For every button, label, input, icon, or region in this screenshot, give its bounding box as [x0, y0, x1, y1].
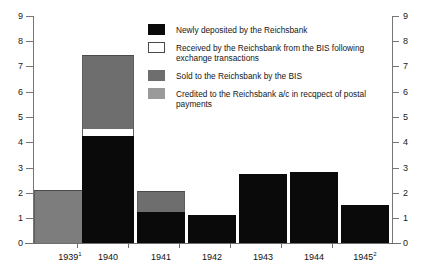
- legend-label-newly-deposited: Newly deposited by the Reichsbank: [176, 24, 307, 35]
- bar-segment-1943-newly-deposited: [239, 174, 287, 243]
- y-label-right-7: 7: [403, 62, 414, 71]
- legend-item-newly-deposited: Newly deposited by the Reichsbank: [148, 24, 398, 35]
- y-tick-right-5: [392, 117, 399, 118]
- legend-label-sold-by-bis: Sold to the Reichsbank by the BIS: [176, 70, 302, 81]
- y-label-right-3: 3: [403, 164, 414, 173]
- y-tick-left-6: [26, 92, 33, 93]
- y-label-right-8: 8: [403, 37, 414, 46]
- x-tick-4: [230, 244, 231, 248]
- bar-segment-1940-newly-deposited: [82, 136, 134, 243]
- y-label-left-7: 7: [12, 62, 23, 71]
- y-label-right-9: 9: [403, 12, 414, 21]
- bar-1945: [341, 205, 389, 243]
- legend-item-received-exchange: Received by the Reichsbank from the BIS …: [148, 42, 398, 63]
- bar-segment-1941-newly-deposited: [137, 212, 185, 244]
- y-tick-right-9: [392, 16, 399, 17]
- bar-segment-1940-sold-by-bis: [82, 55, 134, 129]
- bar-1941: [137, 191, 185, 243]
- y-tick-left-8: [26, 41, 33, 42]
- bar-segment-1941-sold-by-bis: [137, 191, 185, 211]
- y-tick-right-4: [392, 142, 399, 143]
- y-tick-left-2: [26, 193, 33, 194]
- x-axis-line: [25, 243, 401, 244]
- x-tick-3: [179, 244, 180, 248]
- x-label-1944: 1944: [290, 252, 338, 262]
- gray-swatch-icon: [148, 70, 165, 81]
- chart-legend: Newly deposited by the Reichsbank Receiv…: [148, 24, 398, 116]
- bar-segment-1945-newly-deposited: [341, 205, 389, 243]
- y-label-left-9: 9: [12, 12, 23, 21]
- x-label-1941: 1941: [137, 252, 185, 262]
- bar-1943: [239, 174, 287, 243]
- x-tick-6: [332, 244, 333, 248]
- y-tick-left-4: [26, 142, 33, 143]
- y-label-right-5: 5: [403, 113, 414, 122]
- bar-segment-1942-newly-deposited: [188, 215, 236, 243]
- x-label-1944-year: 1944: [304, 252, 324, 262]
- legend-label-received-exchange: Received by the Reichsbank from the BIS …: [176, 42, 398, 63]
- y-tick-left-7: [26, 66, 33, 67]
- y-label-right-1: 1: [403, 214, 414, 223]
- y-tick-right-2: [392, 193, 399, 194]
- x-label-1942-year: 1942: [202, 252, 222, 262]
- x-label-1943-year: 1943: [253, 252, 273, 262]
- x-label-1945-year: 1945: [353, 252, 373, 262]
- y-tick-left-3: [26, 168, 33, 169]
- y-label-left-5: 5: [12, 113, 23, 122]
- bar-segment-1940-received-exchange: [82, 129, 134, 136]
- y-tick-right-1: [392, 218, 399, 219]
- y-tick-left-9: [26, 16, 33, 17]
- black-swatch-icon: [148, 24, 165, 35]
- y-label-left-8: 8: [12, 37, 23, 46]
- y-tick-left-5: [26, 117, 33, 118]
- y-label-left-3: 3: [12, 164, 23, 173]
- x-label-1942: 1942: [188, 252, 236, 262]
- legend-item-credited-postal: Credited to the Reichsbank a/c in recqpe…: [148, 88, 398, 109]
- x-label-1940: 1940: [82, 252, 134, 262]
- legend-label-credited-postal: Credited to the Reichsbank a/c in recqpe…: [176, 88, 398, 109]
- x-label-1941-year: 1941: [151, 252, 171, 262]
- x-tick-5: [281, 244, 282, 248]
- y-label-right-4: 4: [403, 138, 414, 147]
- bar-chart: 9 8 7 6 5 4 3 2 1 0 9 8 7 6 5 4 3 2 1 0: [0, 0, 428, 278]
- x-label-1945: 19452: [341, 252, 389, 262]
- y-label-left-1: 1: [12, 214, 23, 223]
- x-label-1943: 1943: [239, 252, 287, 262]
- y-tick-left-1: [26, 218, 33, 219]
- y-label-right-2: 2: [403, 189, 414, 198]
- bar-segment-1944-newly-deposited: [290, 172, 338, 243]
- y-label-right-0: 0: [403, 239, 414, 248]
- bar-1944: [290, 172, 338, 243]
- x-label-1939-year: 1939: [58, 252, 78, 262]
- bar-1942: [188, 215, 236, 243]
- y-label-left-2: 2: [12, 189, 23, 198]
- y-label-right-6: 6: [403, 88, 414, 97]
- y-label-left-6: 6: [12, 88, 23, 97]
- bar-1940: [82, 55, 134, 243]
- legend-item-sold-by-bis: Sold to the Reichsbank by the BIS: [148, 70, 398, 81]
- y-label-left-4: 4: [12, 138, 23, 147]
- x-tick-1: [77, 244, 78, 248]
- x-tick-2: [128, 244, 129, 248]
- y-label-left-0: 0: [12, 239, 23, 248]
- y-tick-right-3: [392, 168, 399, 169]
- x-label-1940-year: 1940: [98, 252, 118, 262]
- x-label-1945-footnote: 2: [373, 251, 376, 257]
- light-gray-swatch-icon: [148, 88, 165, 99]
- white-swatch-icon: [148, 42, 165, 53]
